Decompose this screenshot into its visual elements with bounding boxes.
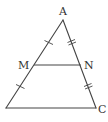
label-a: A xyxy=(58,5,68,18)
label-n: N xyxy=(84,59,94,72)
segment-ab xyxy=(6,20,63,108)
triangle-diagram: A M N C xyxy=(0,0,108,122)
label-c: C xyxy=(98,103,106,116)
label-m: M xyxy=(18,59,29,72)
